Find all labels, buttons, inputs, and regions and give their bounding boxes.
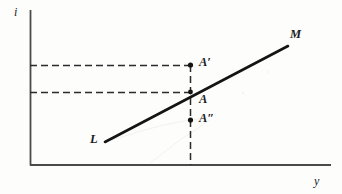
line-label-L: L — [90, 133, 98, 146]
y-axis-label: i — [14, 6, 17, 18]
line-label-M: M — [290, 28, 301, 41]
point-label-A-prime: A′ — [199, 56, 211, 69]
x-axis-label: y — [314, 175, 319, 187]
point-A-prime-marker — [188, 62, 193, 67]
scan-artifacts — [112, 71, 269, 163]
point-label-A-double-prime: A″ — [199, 112, 214, 125]
lm-line — [105, 46, 288, 142]
point-label-A: A — [199, 93, 207, 106]
point-A-marker — [188, 90, 193, 95]
economics-line-diagram: i y M L A′ A A″ — [0, 0, 342, 194]
axis-lines — [30, 10, 331, 166]
point-A-double-prime-marker — [188, 117, 193, 122]
